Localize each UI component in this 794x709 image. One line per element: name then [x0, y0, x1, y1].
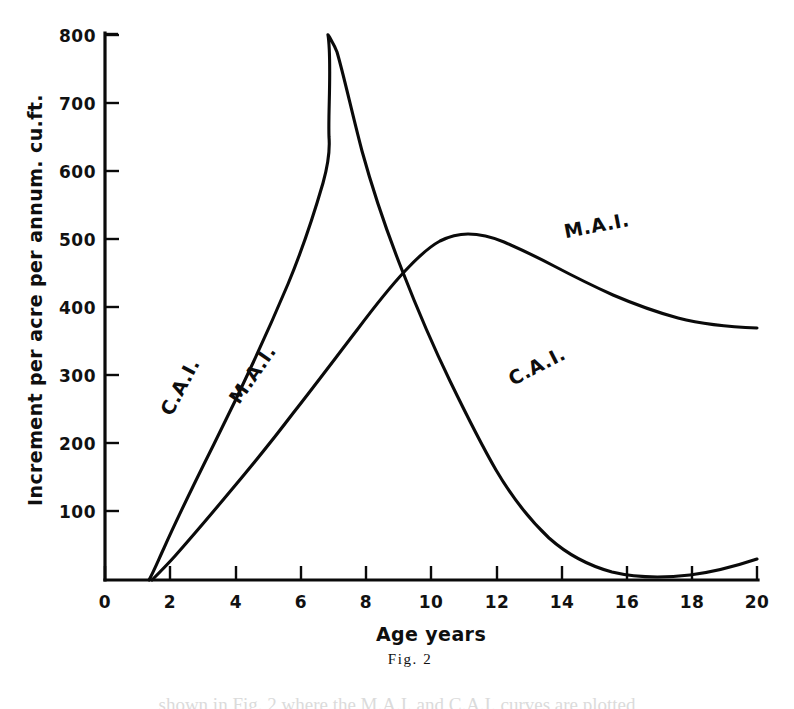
y-tick-labels: 800 700 600 500 400 300 200 100: [59, 26, 96, 522]
x-tick-label-4: 4: [230, 592, 242, 612]
y-tick-label-500: 500: [59, 230, 96, 250]
x-tick-labels: 0 2 4 6 8 10 12 14 16 18 20: [99, 592, 770, 612]
mai-label-left: M.A.I.: [224, 341, 280, 408]
x-tick-label-18: 18: [680, 592, 705, 612]
page-bottom-cutoff-text: shown in Fig. 2 where the M.A.I. and C.A…: [0, 695, 794, 709]
y-axis-title: Increment per acre per annum. cu.ft.: [24, 94, 46, 506]
data-curves-group: [149, 35, 757, 580]
x-tick-label-20: 20: [745, 592, 770, 612]
y-tick-label-700: 700: [59, 94, 96, 114]
y-tick-marks: [105, 35, 119, 511]
curve-cai: [149, 35, 757, 580]
y-tick-label-300: 300: [59, 366, 96, 386]
x-tick-label-12: 12: [485, 592, 510, 612]
curve-annotations: C.A.I. M.A.I. M.A.I. C.A.I.: [156, 208, 632, 419]
x-tick-label-14: 14: [550, 592, 575, 612]
x-tick-label-2: 2: [164, 592, 176, 612]
x-tick-label-8: 8: [360, 592, 372, 612]
x-tick-label-6: 6: [295, 592, 307, 612]
x-tick-label-16: 16: [615, 592, 640, 612]
y-tick-label-200: 200: [59, 434, 96, 454]
axes-group: [105, 33, 758, 580]
x-tick-label-0: 0: [99, 592, 111, 612]
y-tick-label-400: 400: [59, 298, 96, 318]
x-tick-label-10: 10: [419, 592, 444, 612]
curve-mai: [152, 234, 757, 580]
y-tick-label-600: 600: [59, 162, 96, 182]
cai-label-right: C.A.I.: [505, 342, 570, 389]
x-axis-title: Age years: [376, 623, 486, 645]
y-tick-label-100: 100: [59, 502, 96, 522]
y-tick-label-800: 800: [59, 26, 96, 46]
cai-label-left: C.A.I.: [156, 354, 204, 418]
mai-label-right: M.A.I.: [562, 208, 631, 242]
figure-caption: Fig. 2: [388, 651, 433, 667]
